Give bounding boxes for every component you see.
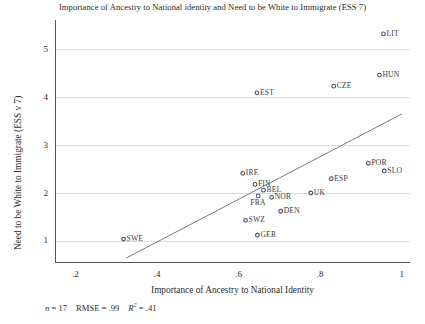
r2-symbol: R2 [128, 303, 136, 313]
point-label-nor: NOR [275, 192, 292, 201]
x-tick-label: .2 [60, 269, 90, 279]
point-label-cze: CZE [337, 81, 352, 90]
point-label-swe: SWE [127, 234, 144, 243]
x-axis-title: Importance of Ancestry to National Ident… [55, 285, 410, 295]
point-label-slo: SLO [387, 166, 402, 175]
x-tick-label: .4 [142, 269, 172, 279]
y-axis-title: Need to be White to Immigrate (ESS v 7) [13, 96, 23, 250]
point-label-esp: ESP [334, 174, 348, 183]
data-point-markers [122, 32, 386, 241]
point-label-swz: SWZ [249, 215, 266, 224]
rmse-symbol: RMSE [76, 303, 102, 313]
x-tick-label: .6 [224, 269, 254, 279]
point-label-hun: HUN [382, 70, 399, 79]
point-label-est: EST [260, 88, 274, 97]
axis-spines [55, 20, 410, 263]
y-tick-label: 5 [28, 44, 48, 54]
plot-canvas [55, 20, 410, 263]
statistics-footnote: n = 17RMSE = .99R2 = .41 [45, 302, 157, 313]
point-label-ire: IRE [246, 168, 259, 177]
n-value: = 17 [51, 303, 67, 313]
plot-area [55, 20, 410, 263]
x-tick-label: 1 [387, 269, 417, 279]
rmse-value: = .99 [102, 303, 120, 313]
point-label-por: POR [371, 158, 386, 167]
point-label-ger: GER [260, 230, 276, 239]
chart-title: Importance of Ancestry to National ident… [0, 2, 425, 12]
gridlines [55, 50, 410, 242]
n-symbol: n [45, 303, 49, 313]
point-label-uk: UK [314, 188, 325, 197]
r2-value: = .41 [139, 303, 157, 313]
point-label-den: DEN [284, 206, 300, 215]
y-tick-label: 4 [28, 92, 48, 102]
x-tick-label: .8 [305, 269, 335, 279]
y-tick-label: 2 [28, 188, 48, 198]
point-label-fra: FRA [250, 198, 265, 207]
point-label-lit: LIT [386, 29, 398, 38]
y-tick-label: 3 [28, 140, 48, 150]
y-tick-label: 1 [28, 235, 48, 245]
scatter-plot-figure: Importance of Ancestry to National ident… [0, 0, 425, 324]
